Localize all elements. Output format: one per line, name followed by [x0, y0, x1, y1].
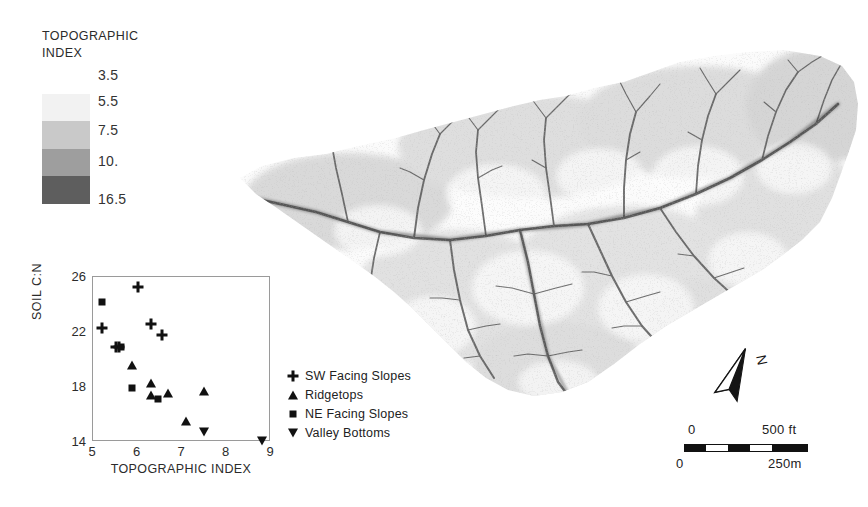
color-band-1	[42, 121, 90, 149]
plus-marker-icon	[145, 318, 156, 329]
figure-root: TOPOGRAPHIC INDEX 3.5 5.5 7.5 10. 16.5 S…	[0, 0, 868, 507]
scatter-x-tick-0: 5	[88, 444, 95, 459]
topo-tick-0: 3.5	[98, 67, 118, 83]
scatter-x-tick-4: 9	[266, 444, 273, 459]
scatter-x-tick-2: 7	[177, 444, 184, 459]
scatter-point	[132, 281, 143, 292]
scale-bottom-left-label: 0	[676, 456, 684, 471]
plus-marker-icon	[96, 322, 107, 333]
scatter-point	[96, 322, 107, 333]
legend-title-line-1: TOPOGRAPHIC	[42, 28, 192, 45]
plus-marker-icon	[156, 329, 167, 340]
scale-bottom-right-label: 250m	[768, 456, 802, 471]
scatter-point	[118, 344, 125, 351]
scatter-point	[146, 378, 156, 387]
north-arrow: N	[694, 338, 774, 416]
square-marker-icon	[118, 344, 125, 351]
north-arrow-label: N	[753, 353, 771, 366]
scatter-point	[199, 387, 209, 396]
scale-segment-white-1	[706, 445, 728, 451]
square-marker-icon	[154, 396, 161, 403]
triangle-marker-icon	[146, 378, 156, 387]
topographic-index-tick-labels: 3.5 5.5 7.5 10. 16.5	[98, 67, 178, 227]
scatter-x-tick-3: 8	[222, 444, 229, 459]
scatter-point	[199, 428, 209, 437]
scatter-point	[145, 318, 156, 329]
scatter-y-tick-2: 22	[60, 324, 86, 339]
triangle-marker-icon	[199, 387, 209, 396]
topo-tick-1: 5.5	[98, 93, 118, 109]
topographic-index-color-bar	[42, 94, 90, 204]
color-band-2	[42, 149, 90, 176]
scatter-point	[127, 361, 137, 370]
topographic-index-legend: TOPOGRAPHIC INDEX 3.5 5.5 7.5 10. 16.5	[42, 28, 192, 246]
topo-tick-4: 16.5	[98, 191, 126, 207]
topo-tick-2: 7.5	[98, 122, 118, 138]
scatter-y-tick-1: 18	[60, 379, 86, 394]
inverted-triangle-marker-icon	[199, 428, 209, 437]
scatter-point	[154, 396, 161, 403]
triangle-marker-icon	[127, 361, 137, 370]
scale-top-left-label: 0	[688, 422, 696, 437]
scale-bar-graphic	[684, 444, 808, 452]
scatter-point	[163, 388, 173, 397]
scatter-point	[181, 417, 191, 426]
legend-title-line-2: INDEX	[42, 45, 192, 62]
triangle-marker-icon	[181, 417, 191, 426]
scale-segment-white-2	[750, 445, 772, 451]
triangle-marker-icon	[163, 388, 173, 397]
color-band-3	[42, 176, 90, 204]
color-band-0	[42, 94, 90, 121]
topographic-index-legend-title: TOPOGRAPHIC INDEX	[42, 28, 192, 62]
scatter-x-tick-1: 6	[133, 444, 140, 459]
scatter-x-axis-label: TOPOGRAPHIC INDEX	[92, 462, 270, 476]
square-marker-icon	[128, 385, 135, 392]
square-marker-icon	[98, 298, 105, 305]
scatter-y-tick-0: 14	[60, 434, 86, 449]
scatter-point	[156, 329, 167, 340]
scatter-y-tick-3: 26	[60, 269, 86, 284]
scale-top-right-label: 500 ft	[762, 422, 796, 437]
topo-tick-3: 10.	[98, 153, 118, 169]
map-scale-bar: 0 500 ft 0 250m	[676, 418, 826, 480]
scatter-point	[128, 385, 135, 392]
scatter-point	[98, 298, 105, 305]
plus-marker-icon	[132, 281, 143, 292]
scatter-y-axis-label: SOIL C:N	[30, 263, 44, 320]
